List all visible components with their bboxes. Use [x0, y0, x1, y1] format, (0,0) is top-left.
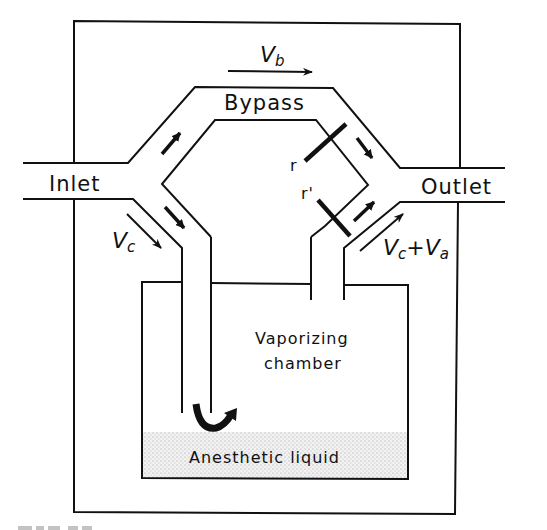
vb-flow-arrow	[228, 71, 312, 72]
vaporizing-chamber-label-line1: Vaporizing	[255, 329, 349, 348]
vb-label: Vb	[260, 42, 285, 70]
bypass-label: Bypass	[224, 91, 305, 115]
bypass-left-flow-arrow	[162, 133, 180, 154]
resistor-r-prime-label: r'	[301, 184, 314, 203]
vaporizer-diagram: Inlet Outlet Bypass Vaporizing chamber A…	[0, 0, 547, 530]
outlet-tube-flow-arrow	[354, 202, 374, 221]
figure-caption-cropped	[18, 526, 92, 530]
vc-plus-va-label: Vc+Va	[383, 235, 449, 263]
resistor-r	[305, 124, 346, 161]
resistor-r-label: r	[290, 156, 298, 175]
bypass-right-flow-arrow	[357, 138, 372, 158]
outlet-label: Outlet	[421, 175, 492, 199]
inlet-label: Inlet	[49, 172, 101, 196]
inlet-tube-flow-arrow	[165, 207, 184, 228]
vc-label: Vc	[112, 228, 136, 256]
inlet-bottom-wall	[23, 199, 182, 413]
anesthetic-liquid-label: Anesthetic liquid	[189, 448, 340, 467]
vaporizing-chamber-label-line2: chamber	[264, 354, 342, 373]
curved-flow-arrow	[196, 404, 231, 428]
